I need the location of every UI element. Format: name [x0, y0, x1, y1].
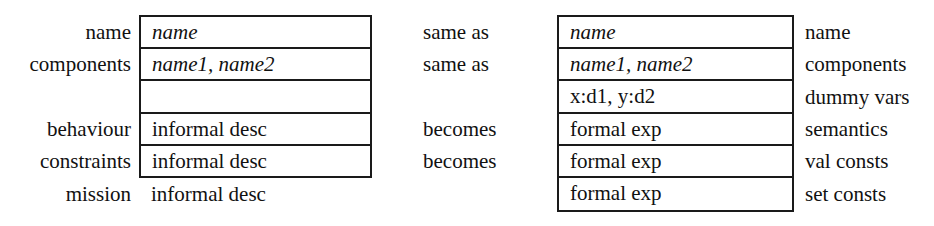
- left-label-name: name: [0, 16, 131, 48]
- right-label-name: name: [805, 16, 850, 48]
- informal-row-constraints: informal desc: [141, 146, 370, 175]
- formal-row-semantics: formal exp: [559, 114, 792, 146]
- formal-row-name: name: [559, 17, 792, 49]
- formal-spec-box: name name1, name2 x:d1, y:d2 formal exp …: [557, 15, 794, 212]
- informal-spec-box: name name1, name2 informal desc informal…: [139, 15, 372, 178]
- informal-row-components: name1, name2: [141, 49, 370, 81]
- informal-row-behaviour: informal desc: [141, 114, 370, 146]
- right-label-components: components: [805, 48, 906, 80]
- right-label-val-consts: val consts: [805, 145, 888, 177]
- mapping-name: same as: [423, 16, 489, 48]
- left-label-constraints: constraints: [0, 145, 131, 177]
- right-label-set-consts: set consts: [805, 178, 886, 210]
- informal-row-mission: informal desc: [151, 178, 266, 210]
- mapping-constraints: becomes: [423, 145, 496, 177]
- informal-row-name: name: [141, 17, 370, 49]
- formal-row-dummy-vars: x:d1, y:d2: [559, 81, 792, 114]
- right-label-dummy-vars: dummy vars: [805, 81, 909, 113]
- mapping-components: same as: [423, 48, 489, 80]
- left-label-components: components: [0, 48, 131, 80]
- left-label-behaviour: behaviour: [0, 113, 131, 145]
- formal-row-set-consts: formal exp: [559, 178, 792, 209]
- formal-row-val-consts: formal exp: [559, 146, 792, 178]
- left-label-mission: mission: [0, 178, 131, 210]
- formal-row-components: name1, name2: [559, 49, 792, 81]
- right-label-semantics: semantics: [805, 113, 888, 145]
- informal-row-empty: [141, 81, 370, 114]
- mapping-behaviour: becomes: [423, 113, 496, 145]
